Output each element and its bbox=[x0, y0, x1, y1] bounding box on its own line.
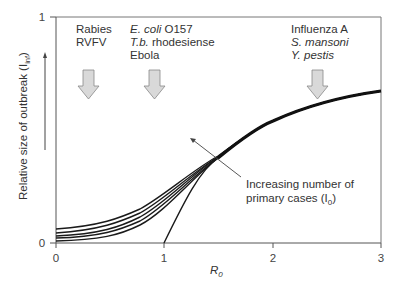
x-tick-0: 0 bbox=[53, 252, 59, 264]
down-arrow-icon bbox=[78, 70, 99, 99]
curve-i0-3 bbox=[56, 91, 381, 238]
down-arrow-icon bbox=[307, 70, 328, 99]
curve-i0-1 bbox=[164, 91, 381, 243]
curve-i0-2 bbox=[56, 91, 381, 241]
y-tick-0: 0 bbox=[39, 237, 45, 249]
svg-text:RVFV: RVFV bbox=[76, 36, 107, 48]
pathogen-group-low: Rabies RVFV bbox=[76, 23, 112, 48]
y-axis-arrow-icon bbox=[43, 52, 47, 150]
curve-i0-5 bbox=[56, 91, 381, 233]
x-tick-3: 3 bbox=[378, 252, 384, 264]
svg-text:Relative size of outbreak (Iin: Relative size of outbreak (Iinf) bbox=[17, 52, 32, 200]
increasing-i0-annotation: Increasing number of primary cases (I0) bbox=[246, 178, 355, 207]
down-arrow-icon bbox=[144, 70, 165, 99]
pathogen-group-high: Influenza A S. mansoni Y. pestis bbox=[291, 23, 349, 61]
chart: 1 0 0 1 2 3 R0 Relative size of outbreak… bbox=[0, 0, 402, 290]
y-tick-1: 1 bbox=[39, 11, 45, 23]
svg-text:Influenza A: Influenza A bbox=[291, 23, 348, 35]
x-tick-2: 2 bbox=[270, 252, 276, 264]
svg-text:Ebola: Ebola bbox=[130, 49, 160, 61]
pathogen-group-mid: E. coli O157 T.b. rhodesiense Ebola bbox=[130, 23, 215, 61]
svg-text:T.b. rhodesiense: T.b. rhodesiense bbox=[130, 36, 215, 48]
svg-text:primary cases (I0): primary cases (I0) bbox=[246, 192, 336, 207]
curve-i0-4 bbox=[56, 91, 381, 236]
svg-text:Y. pestis: Y. pestis bbox=[291, 49, 334, 61]
y-axis-label: Relative size of outbreak (Iinf) bbox=[17, 52, 32, 200]
svg-text:E. coli O157: E. coli O157 bbox=[130, 23, 193, 35]
converged-curve bbox=[218, 91, 381, 158]
curves bbox=[56, 91, 381, 243]
x-axis-label: R0 bbox=[210, 264, 223, 279]
svg-text:Rabies: Rabies bbox=[76, 23, 112, 35]
svg-text:Increasing number of: Increasing number of bbox=[246, 178, 355, 190]
x-tick-1: 1 bbox=[161, 252, 167, 264]
svg-text:S. mansoni: S. mansoni bbox=[291, 36, 349, 48]
